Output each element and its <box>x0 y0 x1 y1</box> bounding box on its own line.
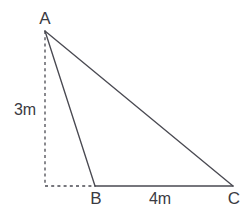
base-measurement-label: 4m <box>149 191 171 207</box>
vertex-label-c: C <box>228 190 240 207</box>
height-measurement-label: 3m <box>14 102 36 118</box>
vertex-label-b: B <box>90 190 101 207</box>
geometry-figure: A B C 3m 4m <box>0 0 252 213</box>
triangle-drawing <box>0 0 252 213</box>
vertex-label-a: A <box>39 10 50 27</box>
side-ac-line <box>45 31 233 186</box>
side-ab-line <box>45 31 95 186</box>
